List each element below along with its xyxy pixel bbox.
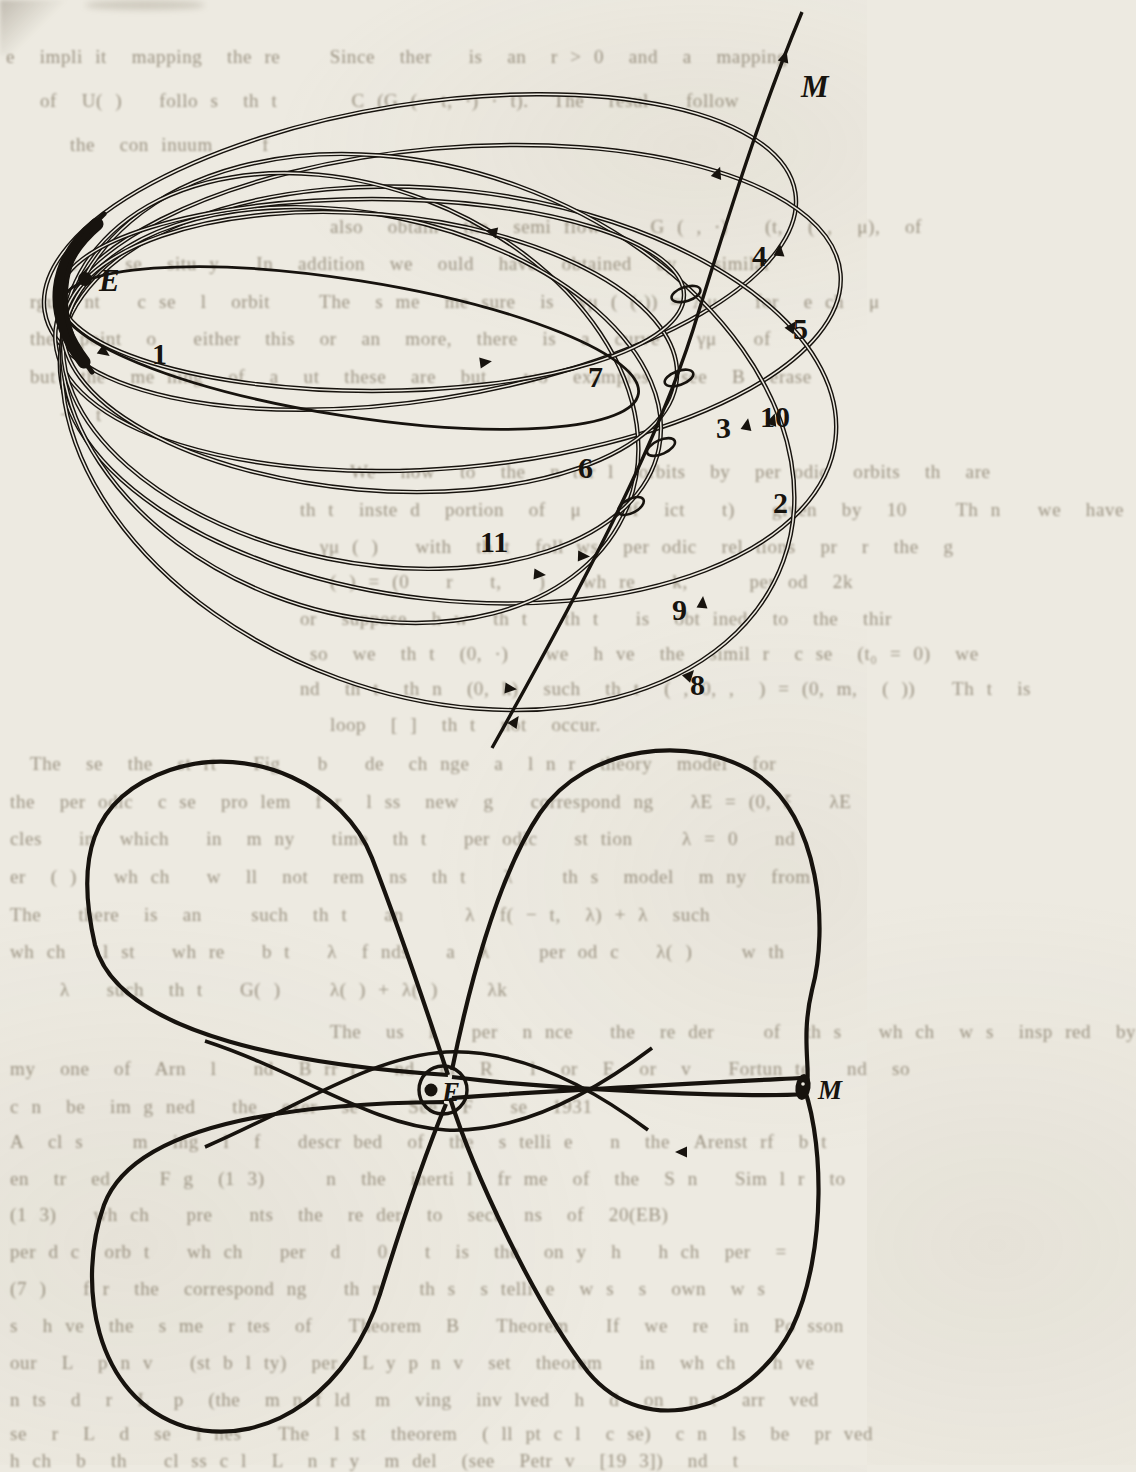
direction-arrow	[578, 551, 590, 562]
direction-arrow	[741, 417, 754, 431]
direction-arrow	[479, 356, 492, 369]
direction-arrow	[534, 569, 547, 581]
orbit-outer-top	[22, 46, 819, 457]
moon-label: M	[800, 69, 830, 104]
moon-label: M	[817, 1075, 843, 1105]
orbit-right-upper	[42, 114, 855, 501]
petal-upper-left	[87, 762, 448, 1075]
orbit-label-8: 8	[690, 668, 705, 701]
orbit-loop-4	[0, 93, 704, 702]
orbit-label-11: 11	[480, 525, 508, 558]
bottom-figure: E M	[87, 750, 843, 1431]
direction-arrow	[697, 596, 709, 609]
top-figure: E M 1 2 3 4 5 6 7 8 9 10 11	[0, 12, 867, 807]
orbit-label-5: 5	[793, 312, 808, 345]
petal-lower-left	[92, 1102, 446, 1432]
orbit-label-6: 6	[578, 451, 593, 484]
petal-lower-right	[450, 1078, 819, 1410]
moon-lens-highlight	[801, 1082, 805, 1086]
earth-label: E	[98, 263, 120, 298]
earth-dot	[78, 272, 92, 286]
earth-dot	[425, 1084, 438, 1097]
direction-arrow	[504, 683, 517, 695]
orbit-label-10: 10	[760, 400, 790, 433]
orbit-label-2: 2	[773, 486, 788, 519]
orbit-label-9: 9	[672, 593, 687, 626]
direction-arrow	[675, 1147, 687, 1158]
orbit-right-lower	[0, 57, 867, 808]
petal-upper-right	[452, 750, 820, 1095]
orbit-label-7: 7	[588, 360, 603, 393]
orbit-label-1: 1	[152, 337, 167, 370]
earth-label: E	[441, 1077, 460, 1107]
orbit-label-4: 4	[752, 239, 767, 272]
orbit-label-3: 3	[716, 411, 731, 444]
